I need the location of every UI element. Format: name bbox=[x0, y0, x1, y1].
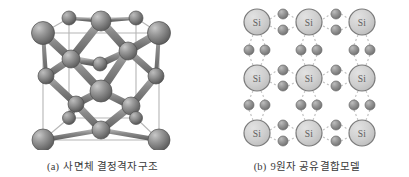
lattice-atom bbox=[32, 129, 54, 150]
covalent-bond-svg: Si Si Si Si Si Si Si Si Si bbox=[205, 0, 409, 150]
electron bbox=[331, 9, 341, 19]
electron bbox=[278, 120, 288, 130]
si-label: Si bbox=[358, 74, 367, 84]
lattice-atom bbox=[129, 11, 143, 25]
lattice-atom bbox=[148, 129, 170, 150]
si-atom: Si bbox=[349, 9, 375, 35]
electron bbox=[331, 120, 341, 130]
electron bbox=[278, 81, 288, 91]
figure-container: (a)사면체 결정격자구조 bbox=[0, 0, 409, 177]
panel-a-caption: (a)사면체 결정격자구조 bbox=[0, 160, 205, 173]
lattice-atom bbox=[32, 22, 55, 45]
si-label: Si bbox=[253, 74, 262, 84]
panel-a-caption-label: (a) bbox=[47, 161, 59, 172]
si-atom: Si bbox=[349, 120, 375, 146]
si-label: Si bbox=[305, 18, 314, 28]
electron bbox=[331, 136, 341, 146]
crystal-lattice-svg bbox=[0, 0, 205, 150]
lattice-atoms bbox=[32, 11, 171, 150]
si-label: Si bbox=[358, 129, 367, 139]
lattice-atom bbox=[148, 22, 171, 45]
lattice-atom bbox=[63, 112, 76, 125]
lattice-atom bbox=[62, 11, 76, 25]
electron bbox=[331, 81, 341, 91]
electron bbox=[244, 45, 254, 55]
lattice-atom bbox=[130, 112, 143, 125]
electron bbox=[312, 45, 322, 55]
panel-a-caption-text: 사면체 결정격자구조 bbox=[63, 161, 158, 172]
lattice-atom bbox=[93, 57, 107, 71]
panel-tetrahedral-lattice: (a)사면체 결정격자구조 bbox=[0, 0, 205, 177]
si-atom: Si bbox=[244, 9, 270, 35]
si-atom: Si bbox=[349, 65, 375, 91]
si-label: Si bbox=[305, 129, 314, 139]
lattice-atom bbox=[91, 11, 111, 31]
panel-covalent-bond-model: Si Si Si Si Si Si Si Si Si (b)9원자 공유결합모델 bbox=[205, 0, 409, 177]
electron bbox=[278, 25, 288, 35]
lattice-figure bbox=[0, 0, 205, 150]
panel-b-caption-label: (b) bbox=[254, 161, 267, 172]
si-atom: Si bbox=[244, 65, 270, 91]
si-label: Si bbox=[253, 18, 262, 28]
electron bbox=[278, 9, 288, 19]
panel-b-caption-text: 9원자 공유결합모델 bbox=[270, 161, 360, 172]
electron bbox=[331, 65, 341, 75]
electron bbox=[278, 136, 288, 146]
lattice-atom bbox=[92, 121, 110, 139]
silicon-atoms: Si Si Si Si Si Si Si Si Si bbox=[244, 9, 375, 146]
panel-b-caption: (b)9원자 공유결합모델 bbox=[205, 160, 409, 173]
si-atom: Si bbox=[296, 120, 322, 146]
electron bbox=[260, 100, 270, 110]
si-atom: Si bbox=[244, 120, 270, 146]
lattice-atom bbox=[62, 50, 80, 68]
electron bbox=[349, 45, 359, 55]
lattice-atom bbox=[148, 68, 164, 84]
si-atom: Si bbox=[296, 9, 322, 35]
si-atom: Si bbox=[296, 65, 322, 91]
electron bbox=[349, 100, 359, 110]
electron bbox=[312, 100, 322, 110]
electron bbox=[278, 65, 288, 75]
bond-model-figure: Si Si Si Si Si Si Si Si Si bbox=[205, 0, 409, 150]
lattice-atom bbox=[38, 68, 54, 84]
electron bbox=[260, 45, 270, 55]
electron bbox=[365, 45, 375, 55]
lattice-atom bbox=[68, 96, 84, 112]
electron bbox=[331, 25, 341, 35]
si-label: Si bbox=[358, 18, 367, 28]
electron bbox=[296, 45, 306, 55]
electron bbox=[365, 100, 375, 110]
si-label: Si bbox=[253, 129, 262, 139]
si-label: Si bbox=[305, 74, 314, 84]
lattice-atom bbox=[90, 80, 112, 102]
electron bbox=[244, 100, 254, 110]
electron bbox=[296, 100, 306, 110]
lattice-atom bbox=[119, 42, 137, 60]
